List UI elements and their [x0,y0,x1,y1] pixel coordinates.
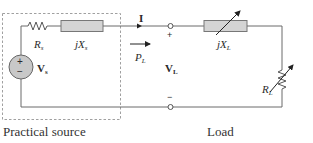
load-minus-sign: − [167,93,172,102]
load-caption: Load [207,125,234,138]
practical-source-caption: Practical source [3,125,86,138]
terminal-top-icon [168,24,173,29]
resistor-rs-icon [28,22,47,30]
xl-label: jXL [217,39,231,52]
resistor-rl-icon [278,70,286,89]
source-voltage-label: Vs [37,63,48,76]
reactance-xs-icon [61,21,103,32]
load-voltage-label: VL [165,63,178,76]
xs-label: jXs [75,39,88,52]
current-label: I [139,13,143,24]
power-label: PL [135,52,146,65]
rs-label: Rs [34,39,43,52]
terminal-bottom-icon [168,105,173,110]
current-arrow-icon [137,24,142,29]
circuit-diagram: + − Vs Rs jXs I PL + VL − jXL RL Practic… [0,0,313,143]
load-plus-sign: + [167,31,172,40]
rl-label: RL [262,84,273,97]
source-minus-sign: − [17,67,23,77]
wire-top-left [21,26,28,55]
